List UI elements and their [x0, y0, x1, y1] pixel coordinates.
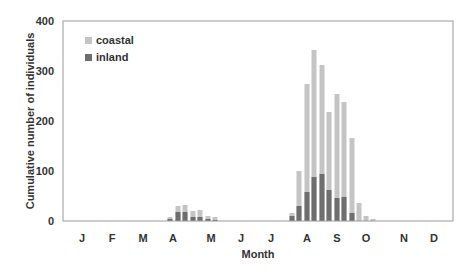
bar-inland: [327, 190, 332, 221]
bar-inland: [297, 206, 302, 221]
x-tick-label: M: [206, 232, 215, 244]
legend-swatch-inland: [85, 54, 92, 61]
bar-chart: 0100200300400 JFMAMJJASOND Cumulative nu…: [0, 0, 469, 272]
x-tick-label: A: [303, 232, 311, 244]
x-axis-ticks: JFMAMJJASOND: [79, 232, 438, 244]
bar-inland: [350, 213, 355, 221]
y-tick-label: 200: [36, 115, 54, 127]
x-tick-label: A: [169, 232, 177, 244]
x-tick-label: M: [138, 232, 147, 244]
legend-label-coastal: coastal: [96, 34, 134, 46]
x-tick-label: J: [268, 232, 274, 244]
bar-inland: [320, 174, 325, 221]
bar-inland: [183, 212, 188, 221]
bar-inland: [290, 216, 295, 221]
bars-group: [168, 50, 376, 221]
bar-coastal: [350, 138, 355, 221]
bar-inland: [305, 192, 310, 221]
y-tick-label: 0: [48, 215, 54, 227]
bar-inland: [176, 212, 181, 221]
bar-inland: [191, 217, 196, 221]
legend-swatch-coastal: [85, 37, 92, 44]
bar-inland: [198, 217, 203, 221]
x-tick-label: J: [79, 232, 85, 244]
bar-coastal: [364, 216, 369, 221]
x-tick-label: D: [430, 232, 438, 244]
bar-inland: [342, 197, 347, 221]
bar-inland: [335, 198, 340, 221]
y-tick-label: 100: [36, 165, 54, 177]
bar-coastal: [357, 203, 362, 221]
legend-label-inland: inland: [96, 51, 128, 63]
y-axis-label: Cumulative number of individuals: [24, 33, 36, 210]
y-tick-label: 400: [36, 15, 54, 27]
x-tick-label: J: [238, 232, 244, 244]
x-tick-label: N: [400, 232, 408, 244]
x-tick-label: F: [109, 232, 116, 244]
x-axis-label: Month: [242, 248, 275, 260]
legend: coastal inland: [85, 34, 134, 63]
x-tick-label: S: [333, 232, 340, 244]
y-axis-ticks: 0100200300400: [36, 15, 54, 227]
y-tick-label: 300: [36, 65, 54, 77]
x-tick-label: O: [362, 232, 371, 244]
bar-inland: [312, 177, 317, 221]
